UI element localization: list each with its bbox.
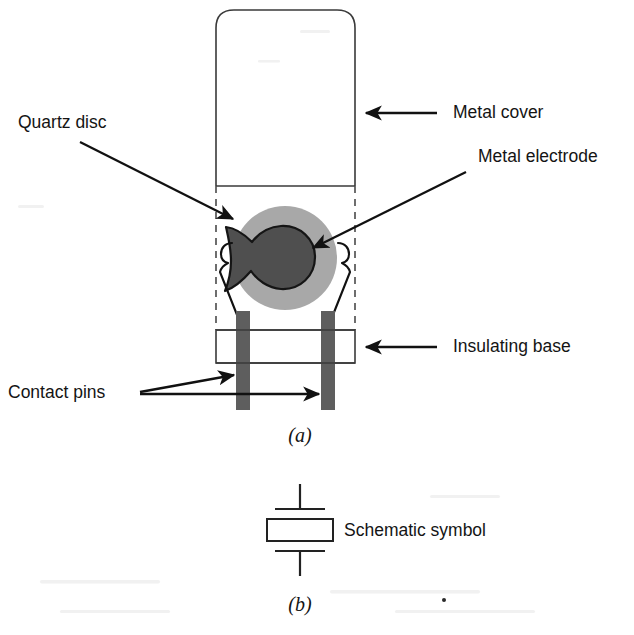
label-insulating-base: Insulating base bbox=[453, 336, 571, 356]
symbol-body-rectangle bbox=[267, 519, 333, 541]
leader-metal-electrode bbox=[313, 172, 466, 248]
contact-pin-right bbox=[321, 311, 335, 410]
leader-contact-pin-left bbox=[140, 375, 234, 392]
stray-dot-artifact bbox=[442, 598, 446, 602]
caption-a: (a) bbox=[288, 424, 312, 447]
leader-quartz-disc bbox=[80, 142, 233, 219]
metal-cover bbox=[216, 10, 355, 186]
label-schematic-symbol: Schematic symbol bbox=[344, 520, 486, 540]
label-contact-pins: Contact pins bbox=[8, 382, 106, 402]
schematic-symbol-group bbox=[267, 484, 333, 576]
label-metal-electrode: Metal electrode bbox=[478, 146, 598, 166]
label-quartz-disc: Quartz disc bbox=[18, 112, 107, 132]
metal-electrode bbox=[225, 226, 315, 291]
caption-b: (b) bbox=[288, 593, 312, 616]
crystal-assembly-group bbox=[216, 10, 355, 410]
figure-root: Quartz disc Metal cover Metal electrode … bbox=[0, 0, 634, 635]
label-metal-cover: Metal cover bbox=[453, 102, 544, 122]
crystal-diagram: Quartz disc Metal cover Metal electrode … bbox=[0, 0, 634, 635]
